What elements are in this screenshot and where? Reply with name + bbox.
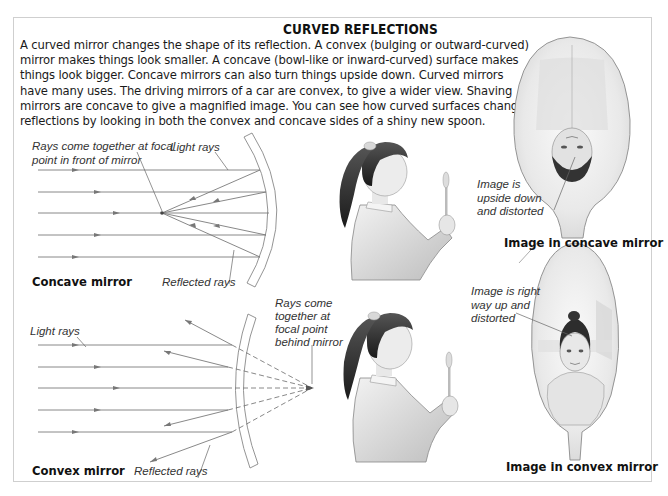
concave-mirror-shape: [244, 133, 277, 287]
label-line: point in front of mirror: [32, 153, 175, 167]
convex-mirror-diagram: [38, 314, 314, 478]
convex-reflected-rays-label: Reflected rays: [134, 464, 208, 478]
label-line: way up and: [471, 299, 540, 313]
concave-light-rays-label: Light rays: [170, 140, 220, 154]
concave-mirror-caption: Concave mirror: [32, 275, 132, 289]
convex-mirror-caption: Convex mirror: [32, 464, 125, 478]
concave-spoon-annotation: Image is upside down and distorted: [477, 178, 544, 219]
label-line: behind mirror: [275, 336, 343, 349]
convex-spoon-image: [516, 243, 619, 460]
label-line: Rays come: [275, 297, 343, 310]
label-line: Image is: [477, 178, 544, 192]
label-line: and distorted: [477, 205, 544, 219]
convex-mirror-shape: [235, 314, 258, 468]
label-line: Rays come together at focal: [32, 139, 175, 153]
focal-point: [160, 211, 164, 215]
girl-figure-bottom: [344, 312, 459, 462]
convex-focal-label: Rays come together at focal point behind…: [275, 297, 343, 349]
girl-figure-top: [340, 142, 455, 280]
convex-spoon-annotation: Image is right way up and distorted: [471, 285, 540, 326]
concave-focal-label: Rays come together at focal point in fro…: [32, 139, 175, 167]
label-line: together at: [275, 310, 343, 323]
label-line: upside down: [477, 192, 544, 206]
label-line: focal point: [275, 323, 343, 336]
convex-light-rays-label: Light rays: [30, 324, 80, 338]
concave-spoon-caption: Image in concave mirror: [504, 236, 663, 250]
convex-spoon-caption: Image in convex mirror: [506, 460, 658, 474]
label-line: Image is right: [471, 285, 540, 299]
label-line: distorted: [471, 312, 540, 326]
virtual-focal-point: [306, 385, 314, 391]
concave-reflected-rays-label: Reflected rays: [162, 275, 236, 289]
